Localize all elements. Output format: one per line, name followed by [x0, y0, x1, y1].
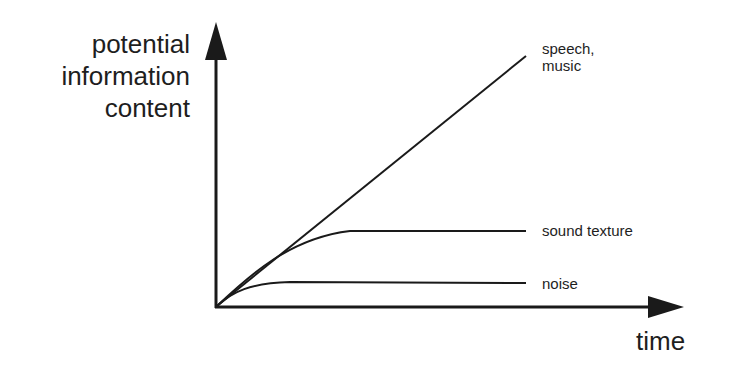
curve-noise: [217, 282, 526, 306]
label-speech-music: speech, music: [542, 40, 595, 74]
y-axis-label-line: content: [61, 92, 190, 124]
y-axis-label: potential information content: [61, 28, 190, 124]
label-noise: noise: [542, 275, 578, 292]
y-axis-arrowhead-icon: [205, 22, 227, 60]
label-line: speech,: [542, 40, 595, 57]
label-line: music: [542, 57, 595, 74]
y-axis-label-line: information: [61, 60, 190, 92]
x-axis-label: time: [636, 326, 685, 357]
label-sound-texture: sound texture: [542, 222, 633, 239]
curve-speech-music: [217, 56, 526, 306]
y-axis-label-line: potential: [61, 28, 190, 60]
x-axis-arrowhead-icon: [648, 296, 684, 318]
